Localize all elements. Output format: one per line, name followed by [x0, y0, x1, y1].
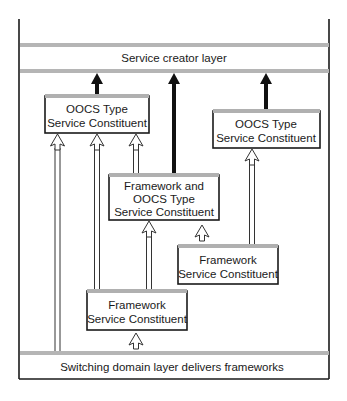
- box-middle-line-1: Framework and: [124, 180, 204, 192]
- box-oocs-left-line-1: OOCS Type: [66, 103, 128, 115]
- box-framework-oocs-middle: Framework and OOCS Type Service Constitu…: [109, 173, 219, 220]
- hollow-arrow-bottom-layer-to-oocs-left: [51, 134, 65, 351]
- box-oocs-left-line-2: Service Constituent: [47, 117, 148, 129]
- hollow-arrow-bottom-layer-to-framework-bottom: [129, 333, 143, 349]
- box-oocs-right: OOCS Type Service Constituent: [213, 109, 320, 148]
- hollow-arrow-framework-right-to-oocs-right: [245, 149, 259, 245]
- box-framework-bottom-line-1: Framework: [108, 299, 166, 311]
- hollow-arrow-framework-bottom-to-middle: [142, 221, 156, 290]
- box-oocs-right-line-1: OOCS Type: [235, 118, 297, 130]
- box-framework-bottom-line-2: Service Constituent: [87, 313, 188, 325]
- thick-arrow-oocs-right-to-top: [260, 73, 272, 110]
- box-framework-right-line-1: Framework: [199, 254, 257, 266]
- box-framework-right-line-2: Service Constituent: [178, 268, 279, 280]
- service-creator-layer-label: Service creator layer: [121, 52, 227, 64]
- switching-domain-layer-label: Switching domain layer delivers framewor…: [60, 361, 284, 373]
- box-middle-line-3: Service Constituent: [114, 206, 215, 218]
- hollow-arrow-framework-bottom-to-oocs-left: [90, 134, 104, 290]
- hollow-arrow-framework-right-to-middle: [195, 225, 209, 241]
- switching-domain-layer: Switching domain layer delivers framewor…: [20, 351, 329, 373]
- box-framework-right: Framework Service Constituent: [178, 244, 279, 284]
- box-oocs-right-line-2: Service Constituent: [216, 132, 317, 144]
- thick-arrow-oocs-left-to-top: [91, 73, 103, 95]
- service-creator-layer: Service creator layer: [20, 43, 329, 73]
- hollow-arrow-middle-to-oocs-left: [129, 134, 143, 174]
- thick-arrow-middle-to-top: [168, 73, 180, 174]
- box-oocs-left: OOCS Type Service Constituent: [45, 94, 149, 133]
- diagram-canvas: Service creator layer Switching domain l…: [0, 0, 347, 401]
- box-middle-line-2: OOCS Type: [133, 193, 195, 205]
- box-framework-bottom: Framework Service Constituent: [87, 289, 188, 330]
